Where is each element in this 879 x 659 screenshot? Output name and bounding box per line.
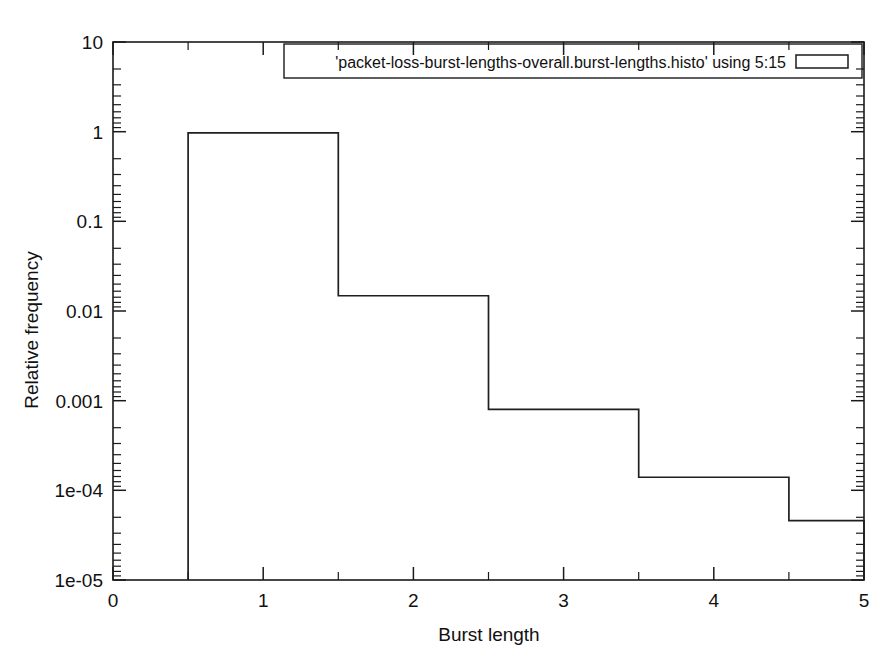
chart-figure: 10 1 0.1 0.01 0.001 1e-04 1e-05 Relative… [0,0,879,659]
y-tick-label-10: 10 [82,32,103,53]
y-tick-label-0point01: 0.01 [66,301,103,322]
x-tick-label-2: 2 [408,590,419,611]
legend-entry-label: 'packet-loss-burst-lengths-overall.burst… [335,54,786,71]
y-tick-label-1e-05: 1e-05 [54,570,103,591]
x-tick-label-3: 3 [558,590,569,611]
y-axis-title: Relative frequency [21,251,42,409]
legend-key-swatch [796,55,848,68]
y-tick-label-1: 1 [92,122,103,143]
y-tick-label-1e-04: 1e-04 [54,480,103,501]
histogram-plot: 10 1 0.1 0.01 0.001 1e-04 1e-05 Relative… [0,0,879,659]
x-tick-label-1: 1 [258,590,269,611]
x-tick-label-4: 4 [709,590,720,611]
x-tick-label-5: 5 [859,590,870,611]
x-axis-title: Burst length [438,624,539,645]
y-tick-label-0point001: 0.001 [55,391,103,412]
figure-background [0,0,879,659]
x-tick-label-0: 0 [108,590,119,611]
y-tick-label-0point1: 0.1 [77,211,103,232]
